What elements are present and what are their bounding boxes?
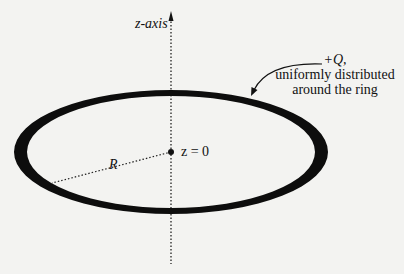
radius-label: R <box>109 157 118 173</box>
center-point <box>168 149 174 155</box>
z-axis-arrowhead-icon <box>169 11 174 21</box>
origin-label: z = 0 <box>181 144 209 160</box>
diagram-canvas <box>0 0 404 274</box>
ring-charge-diagram: z-axis z = 0 R +Q, uniformly distributed… <box>0 0 404 274</box>
charge-label: +Q, uniformly distributed around the rin… <box>270 52 400 97</box>
charge-description-line2: around the ring <box>292 82 378 97</box>
z-axis-label: z-axis <box>135 16 168 32</box>
charge-value: +Q, <box>270 52 400 67</box>
charge-description-line1: uniformly distributed <box>275 67 394 82</box>
